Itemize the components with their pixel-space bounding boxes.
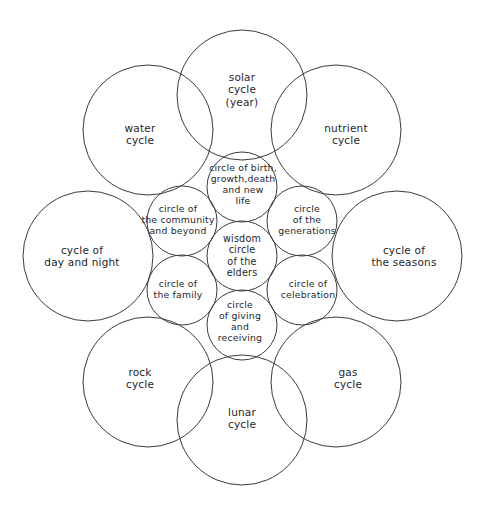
- outer-circle-gas-cycle: [271, 317, 401, 447]
- outer-circle-water-cycle: [83, 65, 213, 195]
- cycles-diagram: solar cycle (year)nutrient cyclecycle of…: [0, 0, 481, 506]
- outer-circle-nutrient-cycle: [271, 65, 401, 195]
- outer-circle-group: [23, 30, 462, 485]
- inner-circle-group: [147, 152, 337, 360]
- center-circle-wisdom-circle-of-the-elders: [207, 221, 277, 291]
- outer-circle-cycle-day-and-night: [23, 191, 153, 321]
- outer-circle-solar-cycle: [177, 30, 307, 160]
- inner-circle-circle-of-celebration: [267, 255, 337, 325]
- circles-canvas: [0, 0, 481, 506]
- inner-circle-circle-of-the-community-and-beyond: [147, 186, 217, 256]
- outer-circle-lunar-cycle: [177, 355, 307, 485]
- inner-circle-circle-of-the-generations: [267, 186, 337, 256]
- outer-circle-cycle-of-seasons: [332, 191, 462, 321]
- inner-circle-circle-of-giving-and-receiving: [207, 290, 277, 360]
- inner-circle-circle-of-the-family: [147, 255, 217, 325]
- inner-circle-circle-of-birth-growth-death-new-life: [207, 152, 277, 222]
- center-circle-group: [207, 221, 277, 291]
- outer-circle-rock-cycle: [83, 317, 213, 447]
